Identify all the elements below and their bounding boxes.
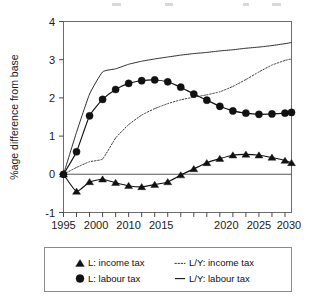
x-tick-label: 2030 (277, 219, 301, 231)
data-point-circle (216, 103, 223, 110)
data-point-circle (229, 107, 236, 114)
chart-canvas: 4 3 2 1 0 -1 %age difference from base 1… (0, 0, 315, 298)
figure-background (0, 0, 315, 298)
data-point-circle (255, 111, 262, 118)
data-point-circle (177, 84, 184, 91)
data-point-circle (203, 97, 210, 104)
figure-container: 4 3 2 1 0 -1 %age difference from base 1… (0, 0, 315, 298)
data-point-circle (125, 80, 132, 87)
data-point-circle (112, 86, 119, 93)
x-tick-label: 2015 (149, 219, 173, 231)
legend-label: L/Y: income tax (189, 257, 254, 268)
data-point-circle (164, 78, 171, 85)
data-point-circle (151, 76, 158, 83)
y-tick-label: -1 (45, 207, 55, 219)
data-point-circle (268, 110, 275, 117)
x-tick-label: 2010 (116, 219, 140, 231)
legend-label: L: labour tax (88, 273, 141, 284)
x-tick-label: 2020 (214, 219, 238, 231)
legend-label: L/Y: labour tax (189, 273, 250, 284)
x-tick-label: 2000 (84, 219, 108, 231)
y-tick-label: 0 (49, 168, 55, 180)
data-point-circle (242, 110, 249, 117)
y-tick-label: 3 (49, 54, 55, 66)
data-point-circle (73, 148, 80, 155)
y-axis-title: %age difference from base (8, 54, 20, 179)
data-point-circle (190, 90, 197, 97)
circle-marker-icon (76, 275, 84, 283)
x-tick-label: 1995 (51, 219, 75, 231)
y-tick-label: 4 (49, 16, 55, 28)
y-tick-label: 1 (49, 130, 55, 142)
data-point-circle (288, 109, 295, 116)
y-tick-label: 2 (49, 92, 55, 104)
data-point-circle (138, 77, 145, 84)
data-point-circle (99, 96, 106, 103)
x-tick-label: 2025 (247, 219, 271, 231)
legend-label: L: income tax (88, 257, 145, 268)
data-point-circle (86, 112, 93, 119)
data-point-circle (281, 110, 288, 117)
